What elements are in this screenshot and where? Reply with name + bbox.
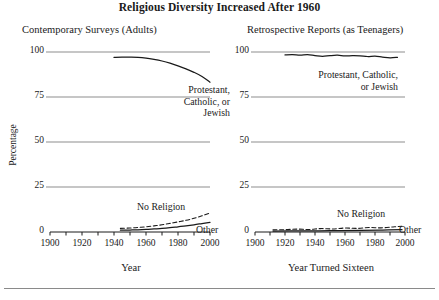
- y-tick-label-left-50: 50: [16, 135, 44, 145]
- footer-divider: [4, 288, 435, 289]
- series-label-right-no-religion: No Religion: [337, 208, 385, 220]
- x-tick-label-left-1920: 1920: [67, 238, 97, 248]
- x-tick-label-left-1940: 1940: [99, 238, 129, 248]
- x-tick-label-right-1940: 1940: [300, 238, 330, 248]
- x-tick-label-right-2000: 2000: [390, 238, 420, 248]
- y-tick-label-left-100: 100: [16, 45, 44, 55]
- series-label-right-pcj: Protestant, Catholic,or Jewish: [288, 69, 398, 92]
- x-tick-label-right-1900: 1900: [240, 238, 270, 248]
- x-tick-label-left-1980: 1980: [163, 238, 193, 248]
- y-tick-label-right-0: 0: [221, 225, 249, 235]
- y-tick-label-right-50: 50: [221, 135, 249, 145]
- x-tick-label-left-1960: 1960: [131, 238, 161, 248]
- x-tick-label-left-2000: 2000: [195, 238, 225, 248]
- x-tick-label-right-1960: 1960: [330, 238, 360, 248]
- plot-surface: [0, 0, 439, 300]
- series-label-left-pcj: Protestant,Catholic, orJewish: [120, 84, 230, 119]
- x-tick-label-right-1980: 1980: [360, 238, 390, 248]
- series-label-right-other: Other: [399, 224, 421, 236]
- y-tick-label-left-25: 25: [16, 180, 44, 190]
- y-tick-label-left-75: 75: [16, 90, 44, 100]
- figure-root: Religious Diversity Increased After 1960…: [0, 0, 439, 300]
- series-line-no-religion: [273, 226, 402, 230]
- series-line-protestant-catholic-or-jewish: [114, 57, 210, 82]
- x-tick-label-left-1900: 1900: [35, 238, 65, 248]
- series-label-left-no-religion: No Religion: [137, 201, 185, 213]
- y-tick-label-right-25: 25: [221, 180, 249, 190]
- y-tick-label-left-0: 0: [16, 225, 44, 235]
- series-line-other: [273, 230, 402, 231]
- y-tick-label-right-100: 100: [221, 45, 249, 55]
- series-label-left-other: Other: [196, 224, 218, 236]
- series-line-protestant-catholic-or-jewish: [285, 55, 398, 58]
- x-tick-label-right-1920: 1920: [270, 238, 300, 248]
